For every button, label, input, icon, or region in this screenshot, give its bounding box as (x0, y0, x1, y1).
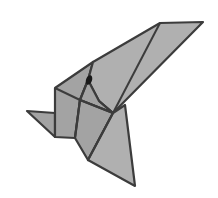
origami-bird-illustration (0, 0, 218, 198)
bird-tail (27, 111, 55, 137)
origami-bird-canvas (0, 0, 218, 198)
bird-wing (88, 22, 203, 113)
